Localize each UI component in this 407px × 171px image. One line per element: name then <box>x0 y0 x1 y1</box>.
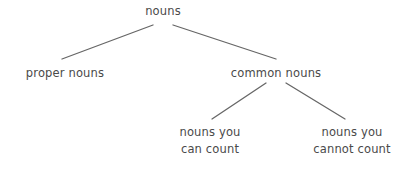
tree-node-nouns-label: nouns <box>123 3 203 20</box>
noun-classification-tree-diagram: nouns proper nouns common nouns nouns yo… <box>0 0 407 171</box>
tree-node-common-nouns: common nouns <box>216 65 336 82</box>
tree-node-uncountable-nouns-label-line-1: nouns you <box>297 124 407 141</box>
tree-node-countable-nouns-label-line-1: nouns you <box>160 124 260 141</box>
edge-nouns-to-common-nouns <box>173 25 276 59</box>
tree-node-proper-nouns: proper nouns <box>10 65 120 82</box>
tree-node-proper-nouns-label: proper nouns <box>10 65 120 82</box>
tree-node-countable-nouns: nouns you can count <box>160 124 260 158</box>
tree-node-uncountable-nouns-label-line-2: cannot count <box>297 141 407 158</box>
tree-node-nouns: nouns <box>123 3 203 20</box>
tree-node-countable-nouns-label-line-2: can count <box>160 141 260 158</box>
edge-common-nouns-to-countable <box>212 83 266 119</box>
tree-node-common-nouns-label: common nouns <box>216 65 336 82</box>
edge-nouns-to-proper-nouns <box>62 25 153 59</box>
edge-common-nouns-to-uncountable <box>286 83 345 119</box>
tree-node-uncountable-nouns: nouns you cannot count <box>297 124 407 158</box>
